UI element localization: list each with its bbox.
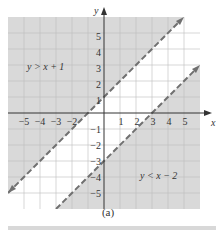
svg-text:2: 2 (96, 79, 101, 90)
svg-text:3: 3 (151, 116, 156, 127)
annotation-upper-inequality: y > x + 1 (26, 61, 64, 72)
svg-text:4: 4 (96, 47, 101, 58)
svg-text:5: 5 (96, 31, 101, 42)
svg-text:−5: −5 (19, 116, 30, 127)
y-axis-arrow-icon (101, 7, 107, 15)
divider (8, 226, 216, 230)
svg-text:−2: −2 (90, 140, 101, 151)
svg-text:−2: −2 (67, 116, 78, 127)
svg-text:−1: −1 (90, 124, 101, 135)
figure-caption: (a) (0, 206, 216, 218)
svg-text:1: 1 (119, 116, 124, 127)
svg-text:−5: −5 (90, 188, 101, 199)
svg-text:−3: −3 (51, 116, 62, 127)
svg-text:3: 3 (96, 63, 101, 74)
svg-text:−4: −4 (35, 116, 46, 127)
svg-text:−3: −3 (90, 156, 101, 167)
x-axis-arrow-icon (204, 110, 212, 116)
svg-text:−4: −4 (90, 172, 101, 183)
svg-text:2: 2 (135, 116, 140, 127)
annotation-lower-inequality: y < x − 2 (139, 170, 177, 181)
svg-text:4: 4 (167, 116, 172, 127)
y-axis-label: y (93, 5, 99, 16)
svg-text:5: 5 (183, 116, 188, 127)
inequality-graph: −5−4−3−2 12345 54321 −1−2−3−4−5 x y y > … (0, 0, 216, 233)
x-axis-label: x (210, 117, 216, 128)
svg-text:1: 1 (96, 95, 101, 106)
